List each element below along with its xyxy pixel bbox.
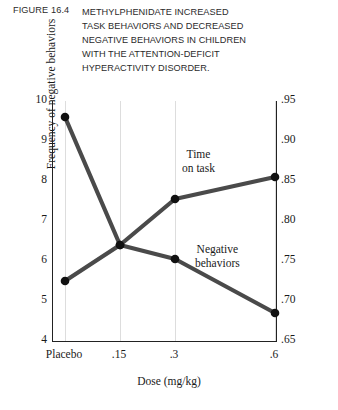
data-point bbox=[171, 195, 180, 204]
y-axis-left-tick-label: 7 bbox=[21, 213, 47, 225]
y-axis-right-tick-label: .90 bbox=[281, 133, 311, 145]
y-axis-left-tick-label: 4 bbox=[21, 333, 47, 345]
annotation-negative-behaviors: Negative behaviors bbox=[195, 243, 240, 270]
data-point bbox=[271, 309, 280, 318]
y-axis-right-tick-label: .75 bbox=[281, 253, 311, 265]
figure-title-text: METHYLPHENIDATE INCREASED TASK BEHAVIORS… bbox=[82, 5, 332, 75]
y-axis-right-tick-label: .80 bbox=[281, 213, 311, 225]
title-line: METHYLPHENIDATE INCREASED bbox=[82, 5, 332, 19]
data-point bbox=[116, 241, 125, 250]
x-axis-title: Dose (mg/kg) bbox=[0, 375, 338, 387]
data-point bbox=[271, 173, 280, 182]
series-overlay bbox=[53, 101, 276, 341]
annotation-line: Negative bbox=[195, 243, 240, 257]
y-axis-left-tick-label: 6 bbox=[21, 253, 47, 265]
plot-area bbox=[52, 101, 277, 342]
title-line: WITH THE ATTENTION-DEFICIT bbox=[82, 47, 332, 61]
annotation-line: on task bbox=[182, 162, 215, 176]
series-line bbox=[65, 117, 275, 313]
data-point bbox=[61, 277, 70, 286]
title-line: HYPERACTIVITY DISORDER. bbox=[82, 61, 332, 75]
annotation-line: Time bbox=[182, 148, 215, 162]
y-axis-right-tick-label: .85 bbox=[281, 173, 311, 185]
x-axis-tick-label: .3 bbox=[134, 348, 214, 360]
annotation-time-on-task: Time on task bbox=[182, 148, 215, 175]
y-axis-left-tick-label: 9 bbox=[21, 133, 47, 145]
x-axis-tick-label: .6 bbox=[234, 348, 314, 360]
data-point bbox=[171, 255, 180, 264]
data-point bbox=[61, 113, 70, 122]
y-axis-right-tick-label: .65 bbox=[281, 333, 311, 345]
y-axis-right-tick-label: .70 bbox=[281, 293, 311, 305]
title-line: NEGATIVE BEHAVIORS IN CHILDREN bbox=[82, 33, 332, 47]
y-axis-left-tick-label: 5 bbox=[21, 293, 47, 305]
y-axis-left-tick-label: 10 bbox=[21, 93, 47, 105]
annotation-line: behaviors bbox=[195, 257, 240, 271]
title-line: TASK BEHAVIORS AND DECREASED bbox=[82, 19, 332, 33]
y-axis-left-tick-label: 8 bbox=[21, 173, 47, 185]
figure-number-label: FIGURE 16.4 bbox=[13, 5, 69, 15]
y-axis-right-tick-label: .95 bbox=[281, 93, 311, 105]
